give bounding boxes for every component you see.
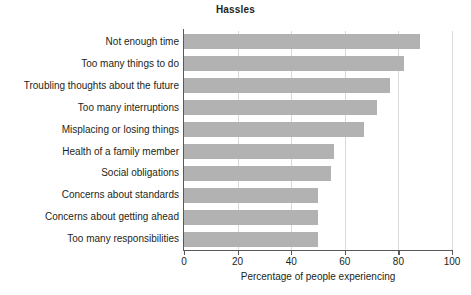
- bar-row: Health of a family member: [184, 141, 452, 163]
- category-label: Not enough time: [0, 31, 179, 53]
- x-axis-line: [183, 250, 453, 251]
- tick-mark-20: [238, 250, 239, 255]
- category-label: Misplacing or losing things: [0, 119, 179, 141]
- bar-row: Too many things to do: [184, 53, 452, 75]
- hassles-bar-chart: Hassles Not enough timeToo many things t…: [0, 0, 471, 295]
- x-tick-label: 20: [218, 256, 258, 267]
- category-label: Concerns about getting ahead: [0, 206, 179, 228]
- bar: [184, 100, 377, 115]
- plot-area: Not enough timeToo many things to doTrou…: [184, 31, 452, 250]
- bar: [184, 122, 364, 137]
- bar-row: Concerns about getting ahead: [184, 206, 452, 228]
- category-label: Too many responsibilities: [0, 228, 179, 250]
- chart-title: Hassles: [0, 4, 471, 15]
- x-tick-label: 40: [271, 256, 311, 267]
- bar-row: Too many responsibilities: [184, 228, 452, 250]
- x-tick-label: 60: [325, 256, 365, 267]
- bar: [184, 166, 331, 181]
- x-tick-label: 100: [432, 256, 471, 267]
- gridline-100: [452, 31, 453, 250]
- tick-mark-0: [184, 250, 185, 255]
- bar: [184, 34, 420, 49]
- bar: [184, 56, 404, 71]
- bar: [184, 210, 318, 225]
- category-label: Concerns about standards: [0, 184, 179, 206]
- bar-row: Social obligations: [184, 162, 452, 184]
- bar-row: Troubling thoughts about the future: [184, 75, 452, 97]
- tick-mark-100: [452, 250, 453, 255]
- bar: [184, 188, 318, 203]
- bar-row: Misplacing or losing things: [184, 119, 452, 141]
- bar-row: Not enough time: [184, 31, 452, 53]
- bar-row: Too many interruptions: [184, 97, 452, 119]
- category-label: Troubling thoughts about the future: [0, 75, 179, 97]
- category-label: Social obligations: [0, 162, 179, 184]
- tick-mark-60: [345, 250, 346, 255]
- bar: [184, 232, 318, 247]
- category-label: Too many things to do: [0, 53, 179, 75]
- bar: [184, 78, 390, 93]
- bar: [184, 144, 334, 159]
- category-label: Too many interruptions: [0, 97, 179, 119]
- bar-row: Concerns about standards: [184, 184, 452, 206]
- tick-mark-40: [291, 250, 292, 255]
- category-label: Health of a family member: [0, 141, 179, 163]
- x-tick-label: 80: [378, 256, 418, 267]
- tick-mark-80: [398, 250, 399, 255]
- x-tick-label: 0: [164, 256, 204, 267]
- x-axis-title: Percentage of people experiencing: [184, 271, 452, 282]
